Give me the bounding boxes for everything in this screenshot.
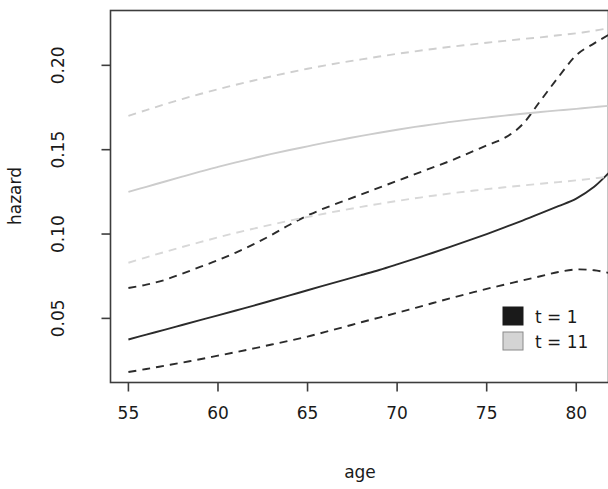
y-tick-label: 0.15 <box>48 131 68 169</box>
x-axis-tick-labels: 556065707580 <box>118 403 587 423</box>
x-axis-ticks <box>128 383 576 392</box>
y-axis-title: hazard <box>5 167 25 225</box>
legend-swatch-1 <box>503 332 523 350</box>
y-axis-tick-labels: 0.050.100.150.20 <box>48 46 68 337</box>
curve-t-=-11-fit <box>128 106 608 192</box>
y-tick-label: 0.05 <box>48 299 68 337</box>
hazard-vs-age-chart: 0.050.100.150.20 556065707580 hazard age… <box>0 0 608 489</box>
x-tick-label: 75 <box>476 403 498 423</box>
x-axis-title: age <box>344 462 376 482</box>
chart-legend: t = 1t = 11 <box>503 307 588 352</box>
x-tick-label: 80 <box>565 403 587 423</box>
x-tick-label: 55 <box>118 403 140 423</box>
legend-label-1: t = 11 <box>535 332 588 352</box>
curve-t-=-1-upper-ci <box>128 35 608 288</box>
curve-t-=-11-lower-ci <box>128 177 608 263</box>
y-axis-ticks <box>102 65 111 318</box>
legend-swatch-0 <box>503 307 523 325</box>
chart-canvas: 0.050.100.150.20 556065707580 hazard age… <box>0 0 608 489</box>
legend-label-0: t = 1 <box>535 307 578 327</box>
x-tick-label: 70 <box>386 403 408 423</box>
curve-t-=-11-upper-ci <box>128 28 608 116</box>
y-tick-label: 0.10 <box>48 215 68 253</box>
y-tick-label: 0.20 <box>48 46 68 84</box>
x-tick-label: 65 <box>297 403 319 423</box>
x-tick-label: 60 <box>207 403 229 423</box>
plot-frame <box>111 11 608 383</box>
